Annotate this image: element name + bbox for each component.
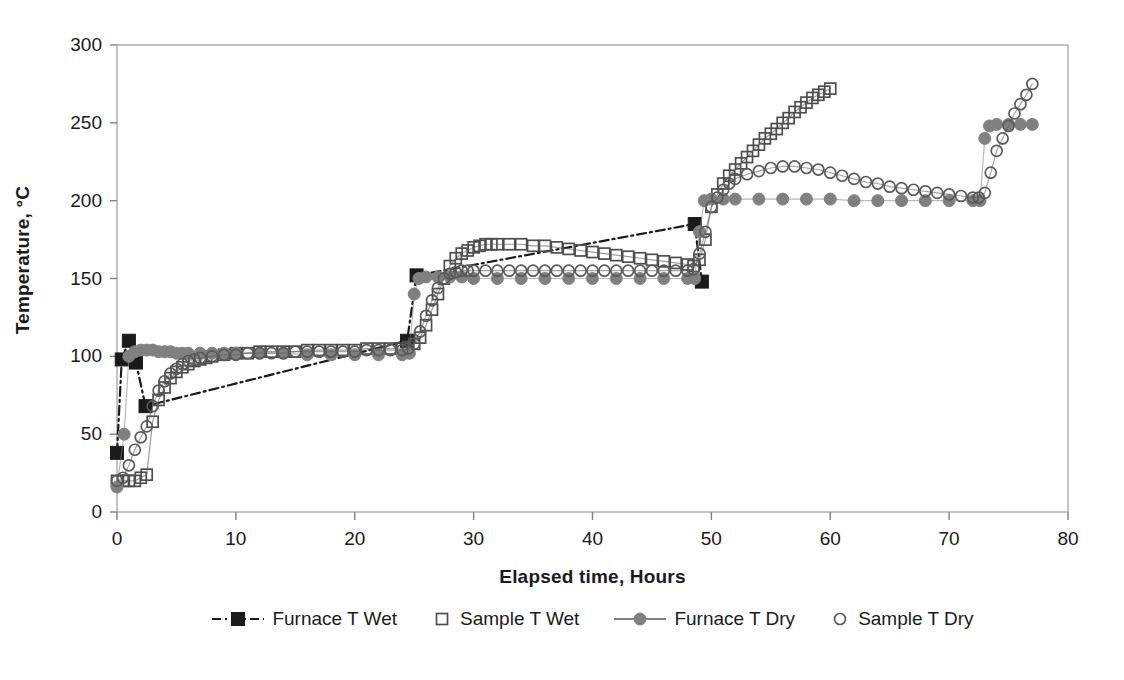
legend-entry[interactable]: Furnace T Wet	[211, 608, 397, 630]
data-point-marker	[1026, 118, 1038, 130]
legend-swatch-icon	[211, 609, 265, 629]
data-point-marker	[848, 195, 860, 207]
legend-entry[interactable]: Sample T Wet	[431, 608, 579, 630]
data-point-marker	[420, 271, 432, 283]
data-point-marker	[1014, 118, 1026, 130]
legend-swatch-icon	[829, 609, 851, 629]
plot-area	[0, 0, 1124, 680]
legend-swatch-icon	[613, 609, 667, 629]
data-point-marker	[979, 132, 991, 144]
legend-entry[interactable]: Sample T Dry	[829, 608, 973, 630]
data-point-marker	[729, 193, 741, 205]
series-line	[117, 84, 1032, 481]
data-point-marker	[824, 193, 836, 205]
legend-label: Sample T Dry	[858, 608, 973, 630]
legend-point-marker	[835, 614, 846, 625]
legend-label: Furnace T Wet	[272, 608, 397, 630]
legend-entry[interactable]: Furnace T Dry	[613, 608, 795, 630]
series-sample-t-dry	[112, 78, 1038, 486]
chart-figure: Temperature, °C Elapsed time, Hours 0501…	[0, 0, 1124, 680]
legend-marker-filled-square-icon	[211, 609, 265, 629]
legend-swatch-icon	[431, 609, 453, 629]
series-furnace-t-dry	[111, 118, 1038, 493]
legend-point-marker	[232, 613, 245, 626]
data-point-marker	[800, 193, 812, 205]
data-point-marker	[991, 118, 1003, 130]
legend-marker-filled-circle-icon	[613, 609, 667, 629]
data-point-marker	[753, 193, 765, 205]
legend-point-marker	[437, 614, 448, 625]
data-point-marker	[408, 288, 420, 300]
data-point-marker	[118, 428, 130, 440]
legend-label: Furnace T Dry	[674, 608, 795, 630]
data-point-marker	[896, 195, 908, 207]
data-point-marker	[872, 195, 884, 207]
legend-marker-open-circle-icon	[829, 609, 851, 629]
series-line	[117, 124, 1032, 487]
legend-marker-open-square-icon	[431, 609, 453, 629]
legend-label: Sample T Wet	[460, 608, 579, 630]
legend-point-marker	[634, 613, 646, 625]
chart-legend: Furnace T WetSample T WetFurnace T DrySa…	[117, 608, 1068, 630]
data-point-marker	[777, 193, 789, 205]
